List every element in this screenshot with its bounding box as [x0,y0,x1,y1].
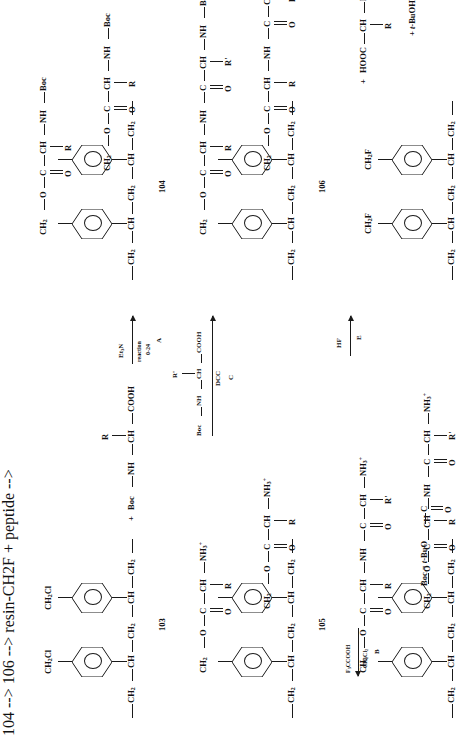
pendant-ch2cl: CH2Cl [44,650,54,674]
group-nh3plus: NH3+ [199,542,209,561]
step-label-b: B [373,649,381,654]
atom-ch2: CH2 [127,121,137,137]
step-label-a: A [155,338,163,343]
atom-ch2: CH2 [287,559,297,575]
atom-ch2: CH2 [263,593,273,609]
arrow-c-reagent-ch: CH [196,369,203,380]
atom-nh: NH [359,0,368,1]
atom-c: C [199,608,208,614]
atom-ch: CH [199,579,208,592]
arrow-c-reagent-cooh: COOH [196,332,203,353]
substituent-r: R [64,145,73,151]
atom-ch2: CH2 [199,219,209,235]
compound-number-103: 103 [158,618,167,631]
group-hooc: HOOC [359,47,368,73]
atom-ch2: CH2 [447,623,457,639]
atom-ch2: CH2 [127,687,137,703]
plus-sign: + [359,79,368,84]
substituent-r-prime: R' [448,432,457,441]
atom-ch2: CH2 [447,559,457,575]
atom-ch2: CH2 [287,121,297,137]
atom-o: O [64,170,73,177]
atom-ch2: CH2 [39,219,49,235]
group-boc: Boc [127,496,136,510]
atom-ch2: CH2 [127,185,137,201]
atom-ch: CH [127,217,136,230]
atom-c: C [103,106,112,112]
benzene-ring [72,583,112,613]
atom-ch2: CH2 [287,185,297,201]
boc-legend-text: Boc = t-BuO [420,541,429,586]
atom-o: O [128,106,137,113]
atom-ch: CH [287,153,296,166]
atom-o: O [288,544,297,551]
substituent-r-prime: R' [288,0,297,2]
arrow-c-reagent-nh: NH [196,396,203,407]
group-nh3plus: NH3+ [359,457,369,476]
group-ch: CH [127,430,136,443]
atom-ch2: CH2 [287,249,297,265]
atom-ch: CH [39,141,48,154]
atom-nh: NH [423,484,432,497]
atom-ch2: CH2 [199,657,209,673]
atom-o: O [199,191,208,198]
substituent-r-prime: R' [224,58,233,67]
group-boc: Boc [103,13,112,27]
atom-c: C [263,544,272,550]
benzene-ring [72,209,112,239]
atom-o: O [263,127,272,134]
scheme-canvas: 104 --> CH2 CH CH2 CH CH2 CH2Cl [0,0,472,736]
atom-o: O [103,127,112,134]
atom-o: O [359,629,368,636]
arrow-c-reagent-boc: Boc [196,425,203,436]
arrow-c-reagent-dcc: DCC [215,371,222,386]
atom-ch2: CH2 [423,593,433,609]
atom-c: C [423,459,432,465]
substituent-r: R [448,519,457,525]
group-boc: Boc [199,0,208,6]
substituent-r: R [128,81,137,87]
substituent-r-prime: R' [172,371,179,378]
step-label-c: C [227,375,235,380]
benzene-ring [392,647,432,677]
atom-o: O [263,565,272,572]
atom-c: C [199,170,208,176]
atom-o: O [448,459,457,466]
benzene-ring [72,647,112,677]
atom-ch: CH [287,591,296,604]
pendant-ch2f: CH2F [364,213,374,234]
arrow-a-condition-2: 0-24 [145,344,151,355]
atom-ch2: CH2 [359,657,369,673]
atom-ch: CH [447,591,456,604]
group-nh: NH [127,462,136,475]
atom-ch2: CH2 [287,623,297,639]
step-label-e: E [355,335,363,340]
benzene-ring [232,209,272,239]
atom-o: O [39,191,48,198]
substituent-r: R [224,145,233,151]
atom-c: C [359,608,368,614]
arrow-a-reagent: Et3N [118,344,126,358]
atom-ch: CH [127,153,136,166]
boc-legend-carbon: C [420,506,429,512]
atom-o: O [288,106,297,113]
atom-c: C [263,21,272,27]
benzene-ring [232,647,272,677]
atom-o: O [384,523,393,530]
boc-legend-oxygen: O [444,506,453,513]
atom-ch2: CH2 [263,155,273,171]
atom-ch2: CH2 [287,687,297,703]
atom-ch: CH [103,77,112,90]
atom-ch: CH [127,591,136,604]
atom-nh: NH [359,548,368,561]
atom-o: O [224,85,233,92]
substituent-r: R [384,23,393,29]
atom-ch2: CH2 [127,559,137,575]
compound-number-106: 106 [318,180,327,193]
plus-sign: + [127,516,136,521]
arrow-a-condition-1: reaction [136,341,142,362]
atom-ch: CH [447,153,456,166]
atom-ch: CH [263,515,272,528]
atom-ch: CH [359,579,368,592]
atom-o: O [448,544,457,551]
